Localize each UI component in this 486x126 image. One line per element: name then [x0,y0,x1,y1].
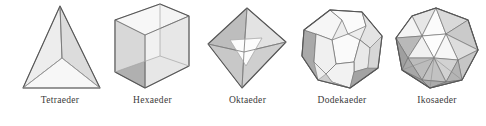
dodekaeder-label: Dodekaeder [318,96,367,106]
hexaeder-svg [105,0,200,96]
ikosaeder-svg [388,0,486,96]
hexaeder-label: Hexaeder [133,96,172,106]
platonic-solids-figure: Tetraeder Hexaeder [0,0,486,126]
hexaeder-drawing [105,0,200,96]
tetraeder-drawing [10,0,110,96]
ikosaeder-drawing [388,0,486,96]
dodekaeder-drawing [292,0,392,96]
solid-tetraeder: Tetraeder [10,0,110,126]
dodekaeder-svg [292,0,392,96]
solid-oktaeder: Oktaeder [200,0,295,126]
solid-hexaeder: Hexaeder [105,0,200,126]
tetraeder-svg [10,0,110,96]
solid-dodekaeder: Dodekaeder [292,0,392,126]
ikosaeder-label: Ikosaeder [417,96,457,106]
oktaeder-label: Oktaeder [229,96,266,106]
solid-ikosaeder: Ikosaeder [388,0,486,126]
oktaeder-svg [200,0,295,96]
tetraeder-label: Tetraeder [41,96,79,106]
oktaeder-drawing [200,0,295,96]
